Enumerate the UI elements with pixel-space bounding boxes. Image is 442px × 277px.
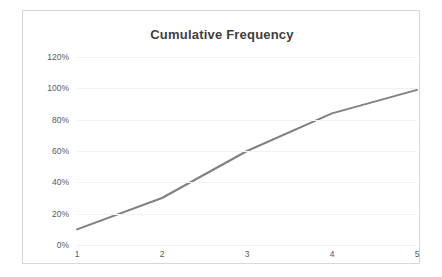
x-tick-label: 1 <box>62 249 92 259</box>
gridline-y-120% <box>77 57 417 58</box>
y-tick-label: 40% <box>29 177 69 187</box>
gridline-y-20% <box>77 214 417 215</box>
x-axis: 12345 <box>77 249 417 263</box>
gridline-y-40% <box>77 182 417 183</box>
plot-area <box>77 57 417 245</box>
gridline-y-60% <box>77 151 417 152</box>
y-axis: 0%20%40%60%80%100%120% <box>23 57 75 245</box>
gridline-y-0% <box>77 245 417 246</box>
y-tick-label: 60% <box>29 146 69 156</box>
gridline-y-80% <box>77 120 417 121</box>
y-tick-label: 120% <box>29 52 69 62</box>
y-tick-label: 20% <box>29 209 69 219</box>
chart-frame: Cumulative Frequency 0%20%40%60%80%100%1… <box>22 10 420 264</box>
x-tick-label: 3 <box>232 249 262 259</box>
gridline-y-100% <box>77 88 417 89</box>
y-tick-label: 80% <box>29 115 69 125</box>
y-tick-label: 100% <box>29 83 69 93</box>
cumulative-frequency-line <box>77 90 417 229</box>
x-tick-label: 5 <box>402 249 432 259</box>
x-tick-label: 2 <box>147 249 177 259</box>
x-tick-label: 4 <box>317 249 347 259</box>
chart-title: Cumulative Frequency <box>23 27 421 42</box>
